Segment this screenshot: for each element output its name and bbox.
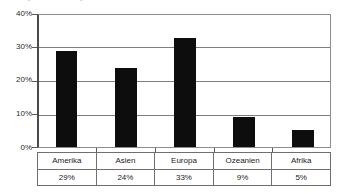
y-tick-label-20: 20% <box>2 76 32 84</box>
y-tick-label-30: 30% <box>2 43 32 51</box>
table-cell-value-amerika: 29% <box>38 170 97 186</box>
table-cell-category-afrika: Afrika <box>272 153 331 170</box>
table-row-values: 29% 24% 33% 9% 5% <box>38 170 331 186</box>
data-table: Amerika Asien Europa Ozeanien Afrika 29%… <box>37 152 331 186</box>
table-cell-value-europa: 33% <box>155 170 214 186</box>
table-cell-value-asien: 24% <box>96 170 155 186</box>
table-cell-value-afrika: 5% <box>272 170 331 186</box>
bar-afrika <box>292 130 314 147</box>
table-cell-category-europa: Europa <box>155 153 214 170</box>
table-cell-category-asien: Asien <box>96 153 155 170</box>
y-axis-labels: 40% 30% 20% 10% 0% <box>0 0 32 194</box>
y-tick-label-10: 10% <box>2 110 32 118</box>
bar-chart-figure: 40% 30% 20% 10% 0% Amerika Asien Europa … <box>0 0 339 194</box>
table-row-categories: Amerika Asien Europa Ozeanien Afrika <box>38 153 331 170</box>
bar-amerika <box>56 51 77 147</box>
table-cell-category-ozeanien: Ozeanien <box>213 153 272 170</box>
bar-europa <box>174 38 196 147</box>
table-cell-value-ozeanien: 9% <box>213 170 272 186</box>
y-tick-label-40: 40% <box>2 10 32 18</box>
table-cell-category-amerika: Amerika <box>38 153 97 170</box>
bar-ozeanien <box>233 117 255 147</box>
bar-asien <box>115 68 137 147</box>
plot-area <box>37 14 331 148</box>
y-tick-label-0: 0% <box>2 144 32 152</box>
